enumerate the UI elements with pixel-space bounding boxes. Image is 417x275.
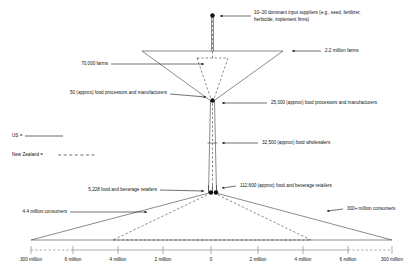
axis-label-5: 2 million xyxy=(238,257,278,262)
measurement-axis xyxy=(31,246,392,254)
us-consumer-fan-right xyxy=(216,193,392,240)
axis-label-1: 6 million xyxy=(53,257,93,262)
label-farms-nz: 70,000 farms xyxy=(0,61,108,68)
axis-label-8: 300 million xyxy=(372,257,412,262)
nz-consumer-fan-right xyxy=(214,193,311,240)
nz-dashed-shape xyxy=(113,16,311,240)
axis-label-3: 2 million xyxy=(143,257,183,262)
hourglass-diagram xyxy=(0,0,417,275)
axis-label-0: 300 million xyxy=(11,257,51,262)
label-farms-us: 2.2 million farms xyxy=(325,48,358,55)
us-waist-left xyxy=(209,101,211,193)
label-consumers-nz: 4.4 million consumers xyxy=(0,209,67,216)
nz-consumer-fan-left xyxy=(113,193,211,240)
retailer-node-nz xyxy=(209,190,213,194)
axis-label-4: 0 xyxy=(191,257,231,262)
label-retailers-nz: 5,228 food and beverage retailers xyxy=(0,187,157,194)
leader-consumers-us xyxy=(327,209,343,211)
label-consumers-us: 300+ million consumers xyxy=(347,206,395,213)
leader-retailers-nz xyxy=(160,190,204,191)
leader-processors-nz xyxy=(170,94,206,97)
axis-label-2: 4 million xyxy=(98,257,138,262)
us-waist-right xyxy=(215,101,217,193)
legend-label-us: US = xyxy=(12,133,22,138)
nz-funnel-right xyxy=(214,58,228,99)
label-input-suppliers: 10–20 dominant input suppliers (e.g., se… xyxy=(254,10,360,23)
label-processors-nz: 50 (approx) food processors and manufact… xyxy=(0,90,167,97)
processor-node xyxy=(210,98,214,102)
retailer-node-us xyxy=(214,190,218,194)
label-processors-us: 25,000 (approx) food processors and manu… xyxy=(271,100,377,107)
us-funnel-right xyxy=(214,51,284,101)
label-wholesalers-us: 32,500 (approx) food wholesalers xyxy=(262,140,330,147)
us-consumer-fan-left xyxy=(31,193,209,240)
label-retailers-us: 112,600 (approx) food and beverage retai… xyxy=(240,183,332,190)
axis-label-7: 6 million xyxy=(328,257,368,262)
legend-label-new-zealand: New Zealand = xyxy=(12,152,43,157)
input-supplier-node xyxy=(210,13,214,17)
leader-retailers-us xyxy=(222,186,236,188)
axis-label-6: 4 million xyxy=(283,257,323,262)
